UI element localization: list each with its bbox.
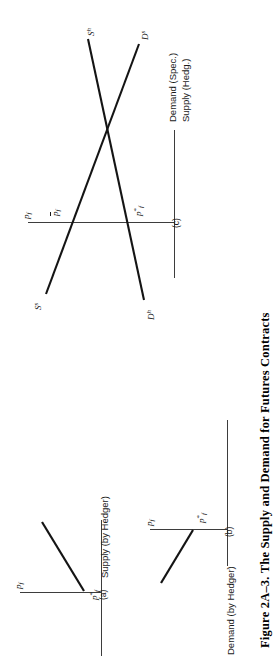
panel-c-label: (c) xyxy=(172,218,181,228)
panel-b-pstar-label: p*f xyxy=(196,513,208,523)
panel-b-quantity-axis xyxy=(227,420,228,566)
panel-a-supply-axis-label: Supply (by Hedger) xyxy=(100,496,110,578)
panel-c-curves xyxy=(0,0,280,656)
figure-caption: Figure 2A–3. The Supply and Demand for F… xyxy=(259,312,272,648)
panel-a-price-axis-label: pf xyxy=(14,583,25,589)
panel-c-demand-spec-label: Demand (Spec.) xyxy=(168,53,178,122)
panel-c-curve-label-Dh: Dh xyxy=(146,310,156,320)
panel-c-quantity-axis xyxy=(174,130,175,278)
panel-c-pstar-label: p*f xyxy=(133,206,145,216)
panel-c-pbar-label: pf xyxy=(51,210,62,216)
panel-b-price-axis-label: pf xyxy=(145,520,156,526)
panel-c-curve-label-Ds: Ds xyxy=(140,31,150,40)
panel-b-curve xyxy=(0,0,280,656)
figure-canvas: Sh Ds Ss Dh pf pf p*f (c) Demand (Spec.)… xyxy=(0,0,280,656)
panel-b-label: (b) xyxy=(225,527,234,537)
panel-b-price-axis xyxy=(150,529,228,530)
panel-b-demand-axis-label: Demand (by Hedger) xyxy=(226,566,236,655)
panel-a-label: (a) xyxy=(99,590,108,600)
panel-c-supply-hedg-label: Supply (Hedg.) xyxy=(181,59,191,122)
panel-c-price-axis xyxy=(28,222,175,223)
panel-c-price-axis-label: pf xyxy=(22,213,33,219)
panel-c-curve-label-Ss: Ss xyxy=(33,303,43,310)
panel-a-curve xyxy=(0,0,280,656)
panel-c-curve-label-Sh: Sh xyxy=(86,28,96,36)
